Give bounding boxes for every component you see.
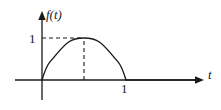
y-axis-label: f(t) — [46, 8, 62, 21]
y-axis — [38, 11, 45, 100]
x-axis-tick-label-1: 1 — [121, 82, 128, 95]
plot-canvas — [0, 0, 221, 110]
x-axis-arrowhead — [195, 76, 204, 84]
function-plot-figure: f(t) t 1 1 — [0, 0, 221, 110]
x-axis-label: t — [208, 68, 212, 81]
y-axis-tick-label-1: 1 — [29, 32, 36, 45]
y-axis-arrowhead — [38, 11, 45, 20]
